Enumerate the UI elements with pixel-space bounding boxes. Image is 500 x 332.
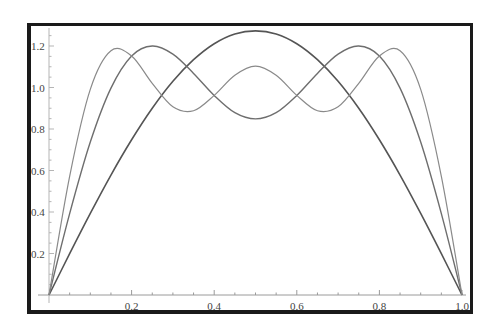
- line-chart: 0.20.40.60.81.0 0.20.40.60.81.01.2: [0, 0, 500, 332]
- y-tick-label: 0.8: [31, 123, 45, 135]
- y-tick-label: 1.0: [31, 82, 45, 94]
- series-line-3: [49, 48, 462, 295]
- axes: 0.20.40.60.81.0 0.20.40.60.81.01.2: [31, 28, 469, 312]
- y-ticks: 0.20.40.60.81.01.2: [31, 36, 54, 285]
- y-tick-label: 1.2: [31, 40, 45, 52]
- x-ticks: 0.20.40.60.81.0: [70, 290, 470, 312]
- y-tick-label: 0.6: [31, 165, 45, 177]
- x-tick-label: 1.0: [455, 300, 469, 312]
- y-tick-label: 0.2: [31, 248, 45, 260]
- series-line-1: [49, 31, 462, 295]
- y-tick-label: 0.4: [31, 206, 45, 218]
- series-group: [49, 31, 462, 295]
- x-tick-label: 0.2: [125, 300, 139, 312]
- x-tick-label: 0.8: [373, 300, 387, 312]
- x-tick-label: 0.6: [290, 300, 304, 312]
- x-tick-label: 0.4: [207, 300, 221, 312]
- series-line-2: [49, 46, 462, 295]
